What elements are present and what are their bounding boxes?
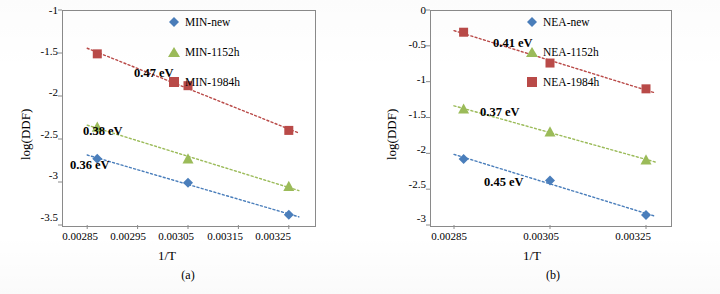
y-tick-b-6: -3 bbox=[392, 212, 426, 224]
y-tick-b-4: -2 bbox=[392, 143, 426, 155]
y-tick-a-2: -2 bbox=[24, 86, 58, 98]
y-tick-b-5: -2.5 bbox=[392, 178, 426, 190]
legend-item-a-2[interactable]: MIN-1984h bbox=[168, 74, 240, 90]
x-tick-b-0: 0.00285 bbox=[419, 230, 479, 242]
annotation-b-red: 0.41 eV bbox=[493, 36, 533, 51]
panel-caption-b: (b) bbox=[523, 268, 583, 283]
legend-item-a-1[interactable]: MIN-1152h bbox=[168, 44, 240, 60]
annotation-a-blue: 0.36 eV bbox=[70, 158, 110, 173]
legend-item-b-2[interactable]: NEA-1984h bbox=[526, 74, 599, 90]
legend-label-b-2: NEA-1984h bbox=[543, 76, 599, 88]
diamond-marker-icon bbox=[526, 16, 538, 28]
legend-label-a-1: MIN-1152h bbox=[185, 46, 240, 58]
y-tick-a-1: -1.5 bbox=[24, 45, 58, 57]
legend-label-a-0: MIN-new bbox=[185, 16, 230, 28]
legend-item-b-1[interactable]: NEA-1152h bbox=[526, 44, 599, 60]
chart-panel-b: log(DDF) 1/T 0 -0.5 -1 -1.5 -2 -2.5 -3 0… bbox=[360, 0, 720, 294]
chart-panel-a: log(DDF) 1/T -1 -1.5 -2 -2.5 -3 -3.5 0.0… bbox=[0, 0, 360, 294]
legend-label-b-0: NEA-new bbox=[543, 16, 590, 28]
square-marker-icon bbox=[526, 76, 538, 88]
legend-a: MIN-new MIN-1152h MIN-1984h bbox=[168, 14, 240, 90]
x-tick-b-2: 0.00325 bbox=[603, 230, 663, 242]
diamond-marker-icon bbox=[168, 16, 180, 28]
legend-label-a-2: MIN-1984h bbox=[185, 76, 240, 88]
y-tick-b-0: 0 bbox=[392, 4, 426, 16]
x-axis-label-b: 1/T bbox=[523, 248, 541, 264]
annotation-b-blue: 0.45 eV bbox=[484, 175, 524, 190]
triangle-marker-icon bbox=[168, 46, 180, 58]
panel-caption-a: (a) bbox=[158, 268, 218, 283]
legend-b: NEA-new NEA-1152h NEA-1984h bbox=[526, 14, 599, 90]
y-tick-b-3: -1.5 bbox=[392, 108, 426, 120]
annotation-a-red: 0.47 eV bbox=[134, 66, 174, 81]
annotation-b-green: 0.37 eV bbox=[480, 105, 520, 120]
legend-item-a-0[interactable]: MIN-new bbox=[168, 14, 240, 30]
x-tick-a-4: 0.00325 bbox=[243, 230, 303, 242]
legend-item-b-0[interactable]: NEA-new bbox=[526, 14, 599, 30]
y-tick-b-1: -0.5 bbox=[392, 38, 426, 50]
legend-label-b-1: NEA-1152h bbox=[543, 46, 599, 58]
y-tick-a-3: -2.5 bbox=[24, 128, 58, 140]
y-tick-b-2: -1 bbox=[392, 73, 426, 85]
y-tick-a-0: -1 bbox=[24, 4, 58, 16]
figure-container: log(DDF) 1/T -1 -1.5 -2 -2.5 -3 -3.5 0.0… bbox=[0, 0, 720, 294]
x-axis-label-a: 1/T bbox=[158, 248, 176, 264]
annotation-a-green: 0.38 eV bbox=[83, 124, 123, 139]
y-tick-a-5: -3.5 bbox=[24, 211, 58, 223]
x-tick-b-1: 0.00305 bbox=[511, 230, 571, 242]
y-tick-a-4: -3 bbox=[24, 169, 58, 181]
